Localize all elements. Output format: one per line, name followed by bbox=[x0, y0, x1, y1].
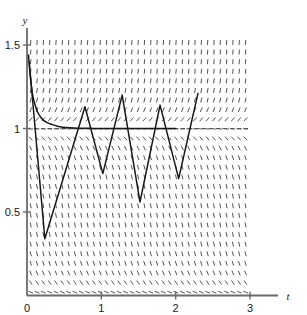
slope-field-dash bbox=[130, 281, 133, 285]
slope-field-dash bbox=[169, 213, 170, 218]
slope-field-dash bbox=[55, 271, 57, 276]
slope-field-dash bbox=[194, 242, 195, 247]
slope-field-dash bbox=[36, 175, 37, 180]
slope-field-dash bbox=[188, 242, 189, 247]
slope-field-dash bbox=[54, 137, 57, 141]
slope-field-dash bbox=[213, 165, 214, 170]
slope-field-dash bbox=[68, 78, 69, 83]
slope-field-dash bbox=[207, 146, 209, 151]
slope-field-dash bbox=[226, 88, 227, 93]
slope-field-dash bbox=[92, 291, 97, 293]
slope-field-dash bbox=[226, 69, 227, 74]
slope-field-dash bbox=[73, 117, 76, 121]
slope-field-dash bbox=[162, 107, 164, 112]
slope-field-dash bbox=[106, 184, 107, 189]
slope-field-dash bbox=[81, 261, 83, 266]
slope-field-dash bbox=[100, 242, 101, 247]
slope-field-dash bbox=[182, 184, 183, 189]
slope-field-dash bbox=[220, 222, 221, 227]
slope-field-dash bbox=[138, 175, 139, 180]
slope-field-dash bbox=[219, 137, 222, 141]
slope-field-dash bbox=[56, 88, 57, 93]
slope-field-dash bbox=[200, 281, 203, 285]
slope-field-dash bbox=[195, 78, 196, 83]
slope-field-dash bbox=[182, 261, 184, 266]
slope-field-dash bbox=[245, 203, 246, 208]
slope-field-dash bbox=[86, 281, 89, 285]
slope-field-dash bbox=[207, 203, 208, 208]
slope-field-dash bbox=[149, 281, 152, 285]
slope-field-dash bbox=[219, 146, 221, 151]
slope-field-dash bbox=[201, 261, 203, 266]
slope-field-dash bbox=[62, 242, 63, 247]
slope-field-dash bbox=[201, 222, 202, 227]
slope-field-dash bbox=[118, 281, 121, 285]
slope-field-dash bbox=[81, 88, 82, 93]
slope-field-dash bbox=[125, 155, 127, 160]
slope-field-dash bbox=[144, 222, 145, 227]
slope-field-dash bbox=[219, 271, 221, 276]
slope-field-dash bbox=[131, 78, 132, 83]
slope-field-dash bbox=[163, 251, 164, 256]
y-tick-label: 1.5 bbox=[5, 39, 20, 51]
slope-field-dash bbox=[37, 184, 38, 189]
slope-field-dash bbox=[201, 213, 202, 218]
slope-field-dash bbox=[93, 98, 94, 103]
slope-field-dash bbox=[232, 155, 234, 160]
slope-field-dash bbox=[187, 117, 190, 121]
slope-field-dash bbox=[118, 271, 120, 276]
slope-field-dash bbox=[49, 98, 50, 103]
slope-field-dash bbox=[181, 137, 184, 141]
slope-field-dash bbox=[106, 98, 107, 103]
slope-field-dash bbox=[138, 213, 139, 218]
slope-field-dash bbox=[54, 117, 57, 121]
slope-field-dash bbox=[68, 69, 69, 74]
slope-field-dash bbox=[106, 165, 107, 170]
slope-field-dash bbox=[87, 203, 88, 208]
slope-field-dash bbox=[143, 137, 146, 141]
slope-field-dash bbox=[188, 107, 190, 112]
slope-field-dash bbox=[62, 88, 63, 93]
slope-field-dash bbox=[93, 203, 94, 208]
slope-field-dash bbox=[150, 165, 151, 170]
slope-field-dash bbox=[239, 78, 240, 83]
slope-field-dash bbox=[188, 232, 189, 237]
slope-field-dash bbox=[213, 232, 214, 237]
slope-field-dash bbox=[239, 184, 240, 189]
slope-field-dash bbox=[37, 194, 38, 199]
slope-field-dash bbox=[232, 232, 233, 237]
slope-field-dash bbox=[245, 213, 246, 218]
slope-field-dash bbox=[213, 271, 215, 276]
slope-field-dash bbox=[43, 203, 44, 208]
slope-field-dash bbox=[176, 69, 177, 74]
slope-field-dash bbox=[125, 271, 127, 276]
slope-field-dash bbox=[119, 78, 120, 83]
slope-field-dash bbox=[86, 137, 89, 141]
slope-field-dash bbox=[206, 117, 209, 121]
slope-field-dash bbox=[106, 242, 107, 247]
slope-field-dash bbox=[131, 88, 132, 93]
slope-field-dash bbox=[150, 78, 151, 83]
slope-field-dash bbox=[181, 281, 184, 285]
slope-field-dash bbox=[187, 281, 190, 285]
slope-field-dash bbox=[214, 88, 215, 93]
slope-field-dash bbox=[112, 155, 114, 160]
slope-field-dash bbox=[207, 98, 208, 103]
slope-field-dash bbox=[49, 203, 50, 208]
slope-field-dash bbox=[207, 213, 208, 218]
slope-field-dash bbox=[55, 194, 56, 199]
slope-field-dash bbox=[245, 251, 246, 256]
slope-field-dash bbox=[81, 165, 82, 170]
slope-field-dash bbox=[36, 251, 37, 256]
slope-field-dash bbox=[87, 242, 88, 247]
slope-field-dash bbox=[194, 175, 195, 180]
slope-field-dash bbox=[125, 242, 126, 247]
slope-field-dash bbox=[169, 175, 170, 180]
slope-field-dash bbox=[62, 222, 63, 227]
slope-field-dash bbox=[220, 261, 222, 266]
slope-field-dash bbox=[207, 155, 209, 160]
slope-field-dash bbox=[62, 261, 64, 266]
slope-field-dash bbox=[195, 222, 196, 227]
slope-field-dash bbox=[119, 213, 120, 218]
slope-field-dash bbox=[68, 184, 69, 189]
